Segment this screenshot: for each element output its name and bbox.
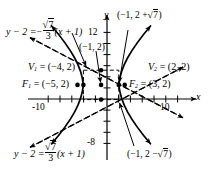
asymptote-neg-denominator: 3 (43, 30, 55, 42)
center-leader (96, 51, 101, 82)
focus-1-label: F1 = (−5, 2) (22, 79, 69, 90)
x-axis-label: x (196, 92, 200, 102)
asymptote-pos-denominator: 3 (45, 152, 57, 164)
vertex-1-subscript: 1 (34, 65, 37, 72)
focus-2-label: F2 = (3, 2) (129, 79, 171, 90)
vertex-1-point (81, 83, 86, 88)
asymptote-pos-tail: (x + 1) (57, 148, 85, 159)
asymptote-pos-lhs: y − 2 = (14, 148, 44, 159)
left-branch-lower (52, 85, 84, 144)
vertex-2-equation: = (2, 2) (160, 61, 190, 72)
asymptote-neg-sign: − (36, 26, 42, 37)
vertex-2-point (117, 83, 122, 88)
covertex-bottom-point (99, 97, 104, 102)
covertex-top-label: (−1, 2 +√7) (117, 11, 162, 21)
vertex-2-subscript: 2 (154, 65, 157, 72)
center-point (99, 83, 104, 88)
covertex-bottom-post: ) (168, 149, 171, 159)
asymptote-negative-equation: y − 2 =−√73(x + 1) (6, 20, 82, 42)
focus-2-equation: = (3, 2) (141, 78, 171, 89)
focus-1-equation: = (−5, 2) (34, 78, 69, 89)
y-axis-label: y (104, 10, 108, 20)
asymptote-pos-radicand: 7 (50, 140, 56, 152)
asymptote-neg-tail: (x + 1) (55, 26, 83, 37)
focus-2-subscript: 2 (135, 82, 138, 89)
y-tick-label-twelve: 12 (88, 28, 98, 38)
focus-1-subscript: 1 (28, 82, 31, 89)
y-tick-label-negative-eight: -8 (87, 138, 95, 148)
x-tick-label-positive-ten: 10 (160, 103, 170, 113)
vertex-2-label: V2 = (2, 2) (148, 62, 190, 73)
center-label: (−1, 2) (79, 43, 105, 53)
vertex-1-equation: = (−4, 2) (40, 61, 75, 72)
focus-2-point (122, 83, 127, 88)
covertex-top-pre: (−1, 2 + (117, 10, 148, 20)
asymptote-positive-equation: y − 2 =√73(x + 1) (14, 142, 85, 164)
hyperbola-figure: y − 2 =−√73(x + 1) y − 2 =√73(x + 1) (−1… (0, 0, 210, 171)
focus-1-point (75, 83, 80, 88)
covertex-top-post: ) (158, 10, 161, 20)
x-tick-label-negative-ten: -10 (32, 103, 45, 113)
covertex-top-leader (119, 30, 128, 82)
covertex-bottom-label: (−1, 2 −√7) (127, 150, 172, 160)
vertex-1-label: V1 = (−4, 2) (28, 62, 75, 73)
asymptote-neg-radicand: 7 (48, 18, 54, 30)
asymptote-neg-lhs: y − 2 = (6, 26, 36, 37)
covertex-bottom-pre: (−1, 2 − (127, 149, 158, 159)
